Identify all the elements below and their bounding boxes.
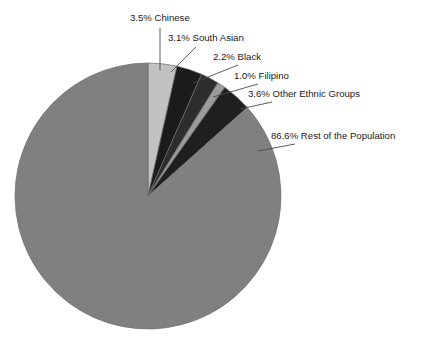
pie-chart-canvas: 3.5% Chinese3.1% South Asian2.2% Black1.… <box>0 0 422 350</box>
slice-label-filipino: 1.0% Filipino <box>234 70 289 81</box>
slice-label-rest-of-population: 86.6% Rest of the Population <box>271 130 395 141</box>
slice-label-chinese: 3.5% Chinese <box>130 12 190 23</box>
pie-chart-figure: 3.5% Chinese3.1% South Asian2.2% Black1.… <box>0 0 422 350</box>
pie-slices-group <box>15 63 281 329</box>
slice-label-south-asian: 3.1% South Asian <box>168 32 244 43</box>
slice-label-other-ethnic-groups: 3.6% Other Ethnic Groups <box>248 88 360 99</box>
slice-label-black: 2.2% Black <box>213 51 261 62</box>
